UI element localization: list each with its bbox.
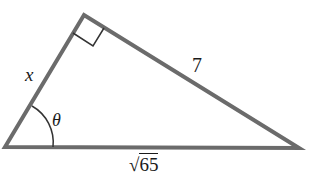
side-label-7: 7 [192, 54, 202, 77]
radicand: 65 [139, 153, 158, 175]
hypotenuse-label: √65 [129, 154, 158, 176]
angle-label-theta: θ [52, 110, 61, 131]
triangle-diagram: x 7 θ √65 [0, 0, 318, 186]
right-angle-marker [73, 28, 104, 46]
angle-arc [32, 106, 53, 147]
side-label-x: x [25, 64, 33, 86]
triangle-figure [0, 0, 318, 186]
triangle-outline [5, 15, 299, 148]
radical-sign: √ [129, 154, 139, 175]
